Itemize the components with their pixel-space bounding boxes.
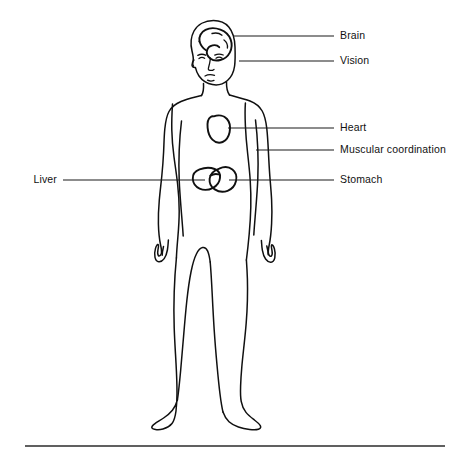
left-eyebrow xyxy=(198,54,206,55)
organ-overlap-crease xyxy=(210,174,218,176)
neck-left-outline xyxy=(202,84,204,96)
left-hand-thumb-line xyxy=(162,247,163,256)
neck-right-outline xyxy=(226,82,229,95)
body-silhouette-group xyxy=(152,21,275,430)
brain-sulcus-2 xyxy=(224,40,227,48)
right-leg-outer-outline xyxy=(223,260,261,430)
left-leg-outer-outline xyxy=(152,258,178,430)
right-eyebrow xyxy=(215,54,223,55)
right-hand-thumb-line xyxy=(267,246,268,255)
callout-label-liver: Liver xyxy=(33,173,57,185)
brain-group xyxy=(199,28,231,60)
right-leg-inner-outline xyxy=(210,262,223,412)
heart-group xyxy=(208,116,231,143)
torso-right-flank xyxy=(245,103,251,260)
brain-inner-fold xyxy=(200,42,207,51)
torso-left-flank xyxy=(172,104,179,258)
right-arm-inner-line xyxy=(254,120,258,235)
callout-label-brain: Brain xyxy=(340,29,365,41)
anatomy-diagram: Brain Vision Heart Muscular coordination… xyxy=(0,0,466,466)
chin-crease xyxy=(208,80,215,81)
callout-label-stomach: Stomach xyxy=(340,173,383,185)
callout-leader-lines xyxy=(63,36,334,180)
mouth xyxy=(205,75,215,76)
brain-sulcus-1 xyxy=(212,33,222,35)
callout-label-vision: Vision xyxy=(340,54,369,66)
callout-labels-group: Brain Vision Heart Muscular coordination… xyxy=(33,29,445,185)
anatomy-svg-canvas: Brain Vision Heart Muscular coordination… xyxy=(0,0,466,466)
left-eye xyxy=(199,58,205,59)
crotch-outline xyxy=(208,251,211,262)
face-group xyxy=(193,54,223,81)
right-eye xyxy=(216,57,222,58)
callout-label-heart: Heart xyxy=(340,121,366,133)
callout-label-muscular-coordination: Muscular coordination xyxy=(340,143,446,155)
heart-outline xyxy=(208,116,231,143)
liver-outline xyxy=(193,168,220,190)
left-ear xyxy=(193,60,194,66)
left-leg-inner-outline xyxy=(177,248,207,400)
